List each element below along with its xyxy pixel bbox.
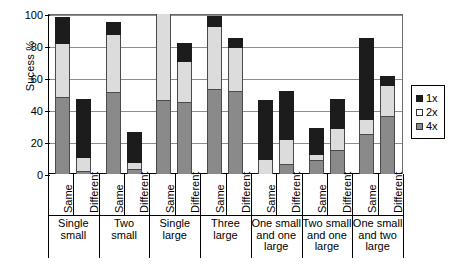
subcategory-label-same: Same xyxy=(113,184,125,213)
subcategory-label-same: Same xyxy=(62,184,74,213)
chart-root: Sucess % 100 80 60 40 20 0 SameDifferent… xyxy=(0,0,458,268)
bar-segment-2x xyxy=(207,27,222,89)
y-tick-20: 20 xyxy=(31,137,49,149)
bar-three-large-different xyxy=(228,38,243,174)
subcategory-label-same: Same xyxy=(316,184,328,213)
subcategory-label-different: Different xyxy=(138,172,150,213)
bar-segment-2x xyxy=(177,62,192,102)
bar-segment-4x xyxy=(177,102,192,174)
bar-segment-1x xyxy=(207,16,222,27)
bar-single-small-different xyxy=(76,99,91,174)
subcategory-label-same: Same xyxy=(366,184,378,213)
bar-segment-2x xyxy=(106,35,121,93)
group-label: Three large xyxy=(200,218,251,241)
bar-segment-4x xyxy=(55,97,70,174)
legend-swatch-4x-icon xyxy=(416,123,423,130)
y-tick-100: 100 xyxy=(25,9,49,21)
bar-segment-1x xyxy=(380,76,395,86)
category-separator xyxy=(48,174,49,258)
bar-segment-1x xyxy=(127,132,142,162)
plot-area: 100 80 60 40 20 0 xyxy=(48,14,403,174)
bar-single-large-different xyxy=(177,43,192,174)
group-label: Two small xyxy=(99,218,150,241)
subcategory-label-same: Same xyxy=(164,184,176,213)
legend-item-1x: 1x xyxy=(416,92,438,104)
legend-label-2x: 2x xyxy=(426,106,438,118)
bar-two-small-different xyxy=(127,132,142,174)
category-axis: SameDifferentSameDifferentSameDifferentS… xyxy=(48,174,403,260)
y-tick-80: 80 xyxy=(31,41,49,53)
legend-swatch-1x-icon xyxy=(416,95,423,102)
bar-single-small-same xyxy=(55,17,70,174)
bar-segment-1x xyxy=(359,38,374,120)
bar-segment-1x xyxy=(76,99,91,158)
group-label: Single large xyxy=(149,218,200,241)
group-label: Single small xyxy=(48,218,99,241)
bar-segment-4x xyxy=(330,150,345,174)
group-label: One small and two large xyxy=(352,218,403,253)
subcategory-label-different: Different xyxy=(341,172,353,213)
bar-segment-4x xyxy=(156,100,171,174)
bar-segment-2x xyxy=(228,48,243,91)
bar-segment-1x xyxy=(330,99,345,129)
bar-segment-2x xyxy=(156,14,171,100)
bar-segment-2x xyxy=(55,44,70,97)
bar-segment-2x xyxy=(359,120,374,134)
bar-segment-1x xyxy=(279,91,294,141)
y-tick-60: 60 xyxy=(31,73,49,85)
bar-segment-1x xyxy=(258,100,273,159)
group-label: One small and one large xyxy=(251,218,302,253)
bar-segment-1x xyxy=(228,38,243,48)
legend-item-2x: 2x xyxy=(416,106,438,118)
legend-swatch-2x-icon xyxy=(416,109,423,116)
y-tick-40: 40 xyxy=(31,105,49,117)
bar-segment-1x xyxy=(309,128,324,155)
bar-segment-4x xyxy=(207,89,222,174)
bar-segment-4x xyxy=(380,116,395,174)
bar-segment-4x xyxy=(359,134,374,174)
subcategory-label-different: Different xyxy=(392,172,404,213)
bar-two-small-same xyxy=(106,22,121,174)
group-label: Two small and one large xyxy=(302,218,353,253)
bar-one-small-and-two-large-different xyxy=(380,76,395,174)
subcategory-label-different: Different xyxy=(88,172,100,213)
bar-segment-1x xyxy=(177,43,192,62)
bar-segment-4x xyxy=(106,92,121,174)
legend-label-4x: 4x xyxy=(426,120,438,132)
subcategory-label-different: Different xyxy=(189,172,201,213)
bar-one-small-and-one-large-same xyxy=(258,100,273,174)
bar-segment-1x xyxy=(106,22,121,35)
bar-segment-2x xyxy=(330,129,345,150)
bar-segment-1x xyxy=(55,17,70,44)
bar-segment-2x xyxy=(380,86,395,116)
bar-three-large-same xyxy=(207,16,222,174)
legend: 1x 2x 4x xyxy=(411,85,445,139)
category-row-divider xyxy=(48,215,403,216)
bar-segment-4x xyxy=(228,91,243,174)
bar-segment-2x xyxy=(279,140,294,164)
bar-segment-2x xyxy=(76,158,91,171)
bar-two-small-and-one-large-different xyxy=(330,99,345,174)
subcategory-label-different: Different xyxy=(290,172,302,213)
bar-single-large-same xyxy=(156,14,171,174)
subcategory-label-same: Same xyxy=(214,184,226,213)
bar-one-small-and-two-large-same xyxy=(359,38,374,174)
bar-series-container xyxy=(49,15,402,174)
bar-one-small-and-one-large-different xyxy=(279,91,294,174)
bar-two-small-and-one-large-same xyxy=(309,128,324,174)
subcategory-label-same: Same xyxy=(265,184,277,213)
legend-item-4x: 4x xyxy=(416,120,438,132)
bar-segment-2x xyxy=(258,160,273,174)
subcategory-label-different: Different xyxy=(240,172,252,213)
legend-label-1x: 1x xyxy=(426,92,438,104)
bar-segment-4x xyxy=(309,160,324,174)
